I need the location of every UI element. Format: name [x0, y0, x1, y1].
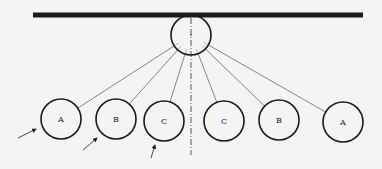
pendulum-diagram: ABCCBA: [0, 0, 382, 169]
ball-label: C: [161, 117, 167, 126]
pivot-tick: [204, 42, 207, 44]
ball-label: B: [276, 116, 282, 125]
pivot-tick: [178, 46, 181, 49]
pivot-tick: [202, 45, 205, 48]
ball-label: A: [57, 115, 64, 124]
string-left-B: [129, 50, 177, 104]
ball-label: A: [339, 118, 346, 127]
ball-left-C: C: [144, 101, 184, 141]
string-left-C: [170, 54, 185, 102]
pivot-tick: [196, 49, 197, 53]
string-left-A: [78, 46, 174, 108]
arrow-icon: [83, 138, 97, 150]
string-right-C: [198, 54, 217, 103]
ball-left-B: B: [96, 99, 136, 139]
arrows: [18, 129, 155, 158]
ball-right-B: B: [259, 100, 299, 140]
ball-label: B: [113, 115, 119, 124]
arrow-icon: [151, 145, 155, 158]
ball-left-A: A: [41, 99, 81, 139]
string-right-A: [208, 45, 325, 112]
pivot-tick: [175, 43, 178, 45]
pivot-tick: [185, 49, 186, 53]
string-right-B: [205, 49, 264, 106]
pivot-center: [190, 34, 192, 36]
ball-label: C: [221, 117, 227, 126]
diagram-canvas: ABCCBA: [0, 0, 382, 169]
arrow-icon: [18, 129, 36, 138]
ball-right-A: A: [323, 102, 363, 142]
ball-right-C: C: [204, 101, 244, 141]
